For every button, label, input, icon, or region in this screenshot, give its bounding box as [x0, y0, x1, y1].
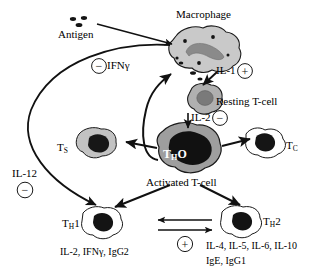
- label-th2-cytokines-line1: IL-4, IL-5, IL-6, IL-10: [206, 241, 297, 252]
- label-ts-sub: S: [64, 146, 68, 155]
- arrow-antigen-to-macrophage: [97, 24, 172, 44]
- sign-crosstalk-glyph: +: [182, 238, 189, 252]
- label-resting-tcell: Resting T-cell: [216, 96, 277, 108]
- label-ifn-gamma: IFNγ: [107, 60, 130, 72]
- pathway-diagram: − + − − +: [0, 0, 313, 274]
- label-th2-main: T: [263, 215, 270, 227]
- label-th1-suffix: 1: [74, 217, 80, 229]
- tc-cell: [246, 128, 286, 158]
- sign-il12-negative: −: [17, 182, 33, 198]
- label-antigen: Antigen: [58, 29, 93, 41]
- label-il-2: IL-2: [191, 112, 211, 124]
- label-th1-cell: TH1: [62, 218, 80, 230]
- label-tc-sub: C: [293, 144, 298, 153]
- label-th2-cell: TH2: [263, 216, 281, 228]
- sign-th-crosstalk-positive: +: [177, 236, 192, 251]
- label-il-1: IL-1: [216, 65, 236, 77]
- label-ts-cell: TS: [57, 142, 68, 154]
- arrow-tho-to-ts: [126, 142, 157, 148]
- label-tho-suffix: O: [177, 147, 186, 161]
- arrow-macrophage-to-resting-tcell: [203, 72, 217, 85]
- sign-ifng-glyph: −: [96, 59, 103, 73]
- th1-cell: [82, 207, 123, 239]
- sign-il2-negative: −: [213, 111, 228, 126]
- label-activated-tcell: Activated T-cell: [146, 177, 217, 189]
- sign-ifng-negative: −: [92, 59, 107, 74]
- sign-il1-glyph: +: [242, 65, 249, 79]
- label-th1-main: T: [62, 217, 69, 229]
- label-ts-main: T: [57, 141, 64, 153]
- label-th1-cytokines: IL-2, IFNγ, IgG2: [60, 247, 129, 258]
- ts-cell: [76, 128, 116, 158]
- label-tho-cell: THO: [163, 148, 187, 162]
- label-th2-suffix: 2: [275, 215, 281, 227]
- label-th2-cytokines-line2: IgE, IgG1: [206, 256, 246, 267]
- sign-il12-glyph: −: [22, 183, 29, 197]
- sign-il2-glyph: −: [217, 111, 224, 125]
- label-macrophage: Macrophage: [176, 9, 231, 21]
- antigen-particles: [70, 16, 87, 27]
- label-tho-main: T: [163, 147, 171, 161]
- label-tc-main: T: [286, 139, 293, 151]
- label-tc-cell: TC: [286, 140, 298, 152]
- label-il-12: IL-12: [12, 168, 37, 180]
- sign-il1-positive: +: [238, 64, 253, 79]
- th2-cell: [221, 206, 262, 238]
